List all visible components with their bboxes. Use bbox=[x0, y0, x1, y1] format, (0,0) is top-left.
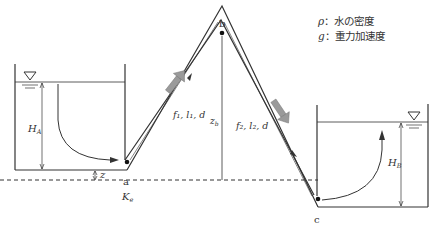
label-entrance-loss: Ke bbox=[121, 191, 133, 204]
label-pipe2: f₂, l₂, d bbox=[235, 120, 268, 131]
arrow-head-icon bbox=[187, 73, 192, 81]
flow-path-b bbox=[322, 138, 382, 200]
tank-b bbox=[317, 104, 428, 207]
label-head-a: HA bbox=[27, 123, 42, 136]
flow-path-a bbox=[58, 84, 110, 160]
siphon-pipe bbox=[125, 6, 318, 207]
flow-direction-arrow-2 bbox=[268, 97, 295, 127]
tank-a bbox=[15, 64, 127, 170]
label-head-b: HB bbox=[387, 157, 402, 170]
label-point-b: b bbox=[219, 18, 225, 29]
elevation-z-dimension bbox=[93, 171, 97, 180]
legend-item-density: ρ：水の密度 bbox=[318, 14, 385, 29]
legend-item-gravity: g：重力加速度 bbox=[318, 29, 385, 44]
arrow-head-icon bbox=[379, 130, 385, 140]
water-level-icon bbox=[408, 112, 420, 120]
water-level-icon bbox=[24, 72, 36, 80]
point-c-marker bbox=[316, 197, 321, 202]
label-point-a: a bbox=[123, 176, 129, 187]
point-a-marker bbox=[125, 160, 130, 165]
label-elevation-z: z bbox=[99, 169, 106, 180]
label-elevation-zb: zb bbox=[209, 116, 219, 127]
point-b-marker bbox=[220, 31, 225, 36]
label-pipe1: f₁, l₁, d bbox=[172, 109, 205, 120]
legend: ρ：水の密度 g：重力加速度 bbox=[318, 14, 385, 44]
arrow-head-icon bbox=[110, 157, 119, 163]
label-point-c: c bbox=[314, 214, 320, 225]
